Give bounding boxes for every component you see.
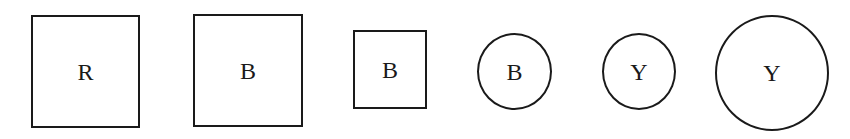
- shape-label: B: [240, 59, 256, 83]
- square-large-b: B: [193, 14, 303, 127]
- shape-label: B: [506, 60, 522, 84]
- circle-small-b: B: [477, 33, 552, 110]
- circle-small-y: Y: [602, 33, 676, 110]
- shape-label: Y: [763, 61, 780, 85]
- square-small-b: B: [353, 30, 427, 109]
- shape-label: R: [77, 60, 93, 84]
- square-large-r: R: [31, 15, 140, 128]
- circle-large-y: Y: [715, 15, 829, 131]
- shape-label: B: [382, 58, 398, 82]
- shape-label: Y: [630, 60, 647, 84]
